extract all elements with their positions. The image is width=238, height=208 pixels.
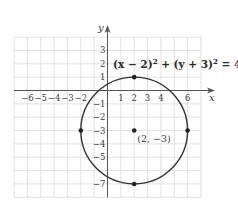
x-tick-label: 6 — [185, 93, 190, 103]
y-tick-label: −5 — [93, 152, 106, 162]
y-tick-label: 1 — [100, 72, 105, 82]
eq-rhs: = 4 — [218, 58, 238, 70]
x-tick-label: 3 — [145, 93, 150, 103]
y-tick-label: −2 — [93, 112, 106, 122]
point-left — [79, 128, 84, 133]
eq-lhs1: (x − 2) — [113, 58, 153, 70]
eq-plus: + (y + 3) — [158, 58, 214, 70]
point-bottom — [132, 182, 137, 187]
x-tick-label: 1 — [118, 93, 123, 103]
x-tick-label: −3 — [61, 93, 74, 103]
x-tick-label: −2 — [75, 93, 88, 103]
x-tick-label: −6 — [21, 93, 34, 103]
circle-equation: (x − 2)2 + (y + 3)2 = 42 — [113, 57, 238, 70]
point-right — [185, 128, 190, 133]
y-tick-label: −1 — [93, 99, 106, 109]
x-tick-label: 4 — [158, 93, 163, 103]
y-tick-label: −7 — [93, 179, 106, 189]
point-center — [132, 128, 137, 133]
y-tick-label: −3 — [93, 126, 106, 136]
y-tick-label: −4 — [93, 139, 106, 149]
center-point-label: (2, −3) — [137, 133, 171, 144]
point-top — [132, 75, 137, 80]
y-axis-label: y — [97, 22, 104, 33]
circle-graph: −6−5−4−3−212346321−1−2−3−4−5−7 x y (x − … — [0, 0, 238, 208]
y-tick-label: 3 — [100, 45, 105, 55]
x-axis-label: x — [209, 92, 215, 103]
x-tick-label: −5 — [34, 93, 47, 103]
y-tick-label: 2 — [100, 59, 105, 69]
x-tick-label: 2 — [131, 93, 136, 103]
x-tick-label: −4 — [48, 93, 61, 103]
